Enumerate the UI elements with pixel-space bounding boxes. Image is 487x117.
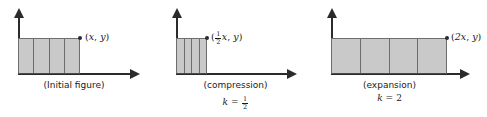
figure-panel-expansion: (2x, y) (expansion) k=2 — [323, 0, 487, 117]
fraction-denominator: 2 — [215, 39, 221, 46]
rect-column — [177, 39, 185, 73]
rect-column — [200, 39, 207, 73]
shaded-rectangle-compression — [176, 38, 207, 74]
corner-point-dot — [205, 36, 209, 40]
figure-panel-initial: (x, y) (Initial figure) — [0, 0, 163, 117]
transformation-diagram: (x, y) (Initial figure) (12x, y) (compre… — [0, 0, 487, 117]
x-axis-arrow-icon — [460, 69, 470, 79]
k-symbol: k — [377, 93, 382, 103]
k-equals-sign: = — [231, 97, 239, 107]
point-close-paren: ) — [106, 31, 110, 42]
rect-column — [50, 39, 65, 73]
rect-column — [332, 39, 361, 73]
rect-column — [418, 39, 446, 73]
k-symbol: k — [222, 97, 227, 107]
point-label-initial: (x, y) — [85, 32, 109, 42]
rect-column — [19, 39, 34, 73]
point-half-fraction: 12 — [215, 31, 221, 45]
rect-column — [390, 39, 419, 73]
point-close-paren: ) — [478, 31, 482, 42]
rect-column — [192, 39, 200, 73]
rect-column — [185, 39, 193, 73]
k-value-expansion: k=2 — [323, 94, 456, 103]
rect-column — [361, 39, 390, 73]
point-comma: , — [466, 31, 469, 42]
shaded-rectangle-initial — [18, 38, 80, 74]
point-comma: , — [227, 31, 230, 42]
x-axis-arrow-icon — [130, 69, 140, 79]
point-label-compression: (12x, y) — [211, 31, 242, 45]
corner-point-dot — [78, 36, 82, 40]
k-number: 2 — [396, 93, 402, 103]
point-x-value: 2x — [455, 31, 466, 42]
point-close-paren: ) — [239, 31, 243, 42]
figure-panel-compression: (12x, y) (compression) k=12 — [163, 0, 323, 117]
fraction-denominator: 2 — [242, 104, 248, 111]
k-half-fraction: 12 — [242, 96, 248, 110]
shaded-rectangle-expansion — [331, 38, 447, 74]
point-label-expansion: (2x, y) — [451, 32, 481, 42]
k-equals-sign: = — [386, 93, 394, 103]
point-comma: , — [94, 31, 97, 42]
k-value-compression: k=12 — [163, 96, 308, 110]
rect-column — [34, 39, 49, 73]
caption-initial: (Initial figure) — [0, 80, 148, 90]
rect-column — [65, 39, 79, 73]
x-axis-arrow-icon — [287, 69, 297, 79]
corner-point-dot — [445, 36, 449, 40]
point-open-paren: ( — [211, 31, 215, 42]
caption-expansion: (expansion) — [323, 80, 456, 90]
caption-compression: (compression) — [163, 80, 308, 90]
